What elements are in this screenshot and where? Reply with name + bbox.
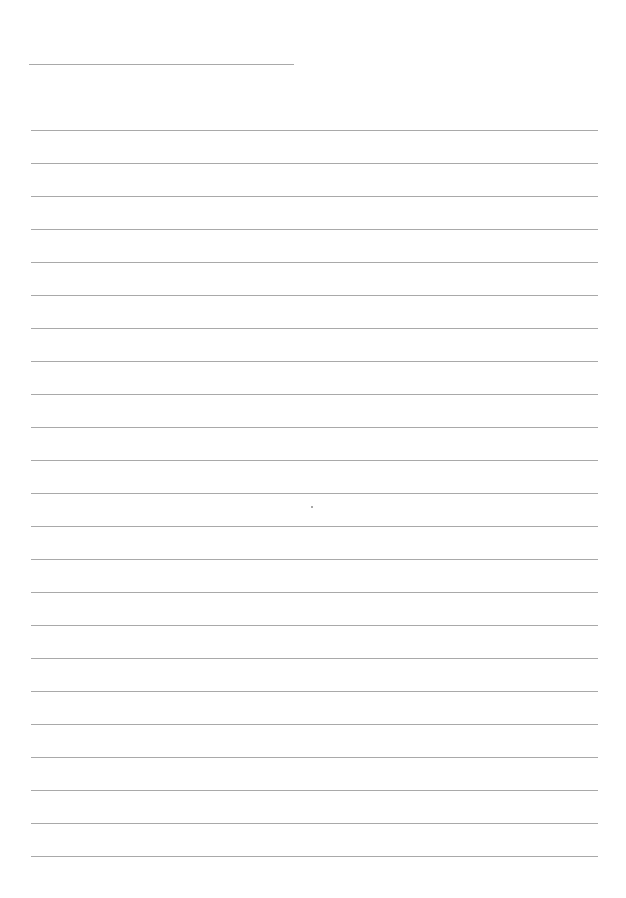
ruled-line [31, 658, 598, 659]
ruled-line [31, 460, 598, 461]
ruled-line [31, 163, 598, 164]
ruled-line [31, 196, 598, 197]
ruled-line [31, 493, 598, 494]
ruled-line [31, 361, 598, 362]
ruled-line [31, 757, 598, 758]
ruled-line [31, 691, 598, 692]
ruled-line [31, 856, 598, 857]
ruled-line [31, 592, 598, 593]
ruled-line [31, 130, 598, 131]
lined-paper-page [0, 0, 626, 898]
ruled-line [31, 328, 598, 329]
header-rule [29, 64, 294, 65]
ruled-line [31, 625, 598, 626]
speck-mark [311, 506, 313, 508]
ruled-line [31, 394, 598, 395]
ruled-line [31, 229, 598, 230]
ruled-line [31, 295, 598, 296]
ruled-line [31, 823, 598, 824]
ruled-line [31, 526, 598, 527]
ruled-line [31, 724, 598, 725]
ruled-line [31, 790, 598, 791]
ruled-line [31, 262, 598, 263]
ruled-line [31, 427, 598, 428]
ruled-line [31, 559, 598, 560]
